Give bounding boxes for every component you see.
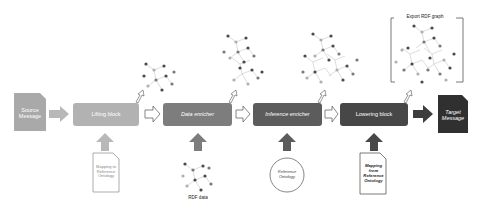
rdf-data-graph-icon: [181, 162, 212, 191]
lifting-block-label: Lifting block: [73, 103, 139, 126]
hollow-arrow-icon: [325, 106, 338, 122]
lowering-block-label: Lowering block: [340, 103, 408, 126]
mapping-to-ref-label: Mapping to Reference Ontology: [94, 160, 118, 184]
rdf-graph-icon: [222, 34, 263, 85]
input-arrow-icon: [189, 133, 207, 151]
target-message-label: Target Message: [438, 102, 468, 128]
data-enricher-label: Data enricher: [163, 103, 232, 126]
rdf-data-label: RDF data: [176, 194, 220, 202]
export-rdf-graph-icon: [394, 24, 455, 83]
arrow-icon: [413, 105, 433, 123]
arrow-icon: [49, 106, 69, 122]
input-arrow-icon: [96, 133, 114, 151]
source-message-label: Source Message: [14, 100, 46, 126]
rdf-graph-icon: [301, 32, 358, 83]
mapping-from-ref-label: Mapping from Reference Ontology: [361, 158, 386, 190]
inference-enricher-label: Inference enricher: [253, 103, 322, 126]
input-arrow-icon: [365, 133, 383, 151]
input-arrow-icon: [278, 133, 296, 151]
export-rdf-label: Export RDF graph: [395, 12, 455, 21]
hollow-arrow-icon: [145, 106, 160, 122]
rdf-graph-icon: [142, 62, 175, 91]
reference-ontology-label: Reference Ontology: [272, 166, 302, 184]
hollow-arrow-icon: [236, 106, 250, 122]
